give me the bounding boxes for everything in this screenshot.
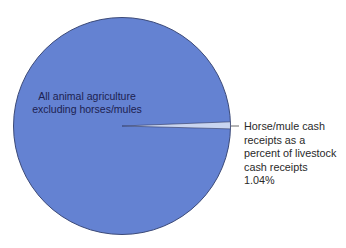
slice-label-line: receipts as a — [244, 134, 346, 148]
main-slice-label: All animal agriculture excluding horses/… — [22, 90, 152, 116]
slice-label-line: cash receipts — [244, 161, 346, 175]
slice-percent: 1.04% — [244, 174, 346, 188]
slice-label-line: Horse/mule cash — [244, 120, 346, 134]
slice-label-line: percent of livestock — [244, 147, 346, 161]
main-label-line: All animal agriculture — [22, 90, 152, 103]
main-label-line: excluding horses/mules — [22, 103, 152, 116]
small-slice-label: Horse/mule cash receipts as a percent of… — [244, 120, 346, 188]
